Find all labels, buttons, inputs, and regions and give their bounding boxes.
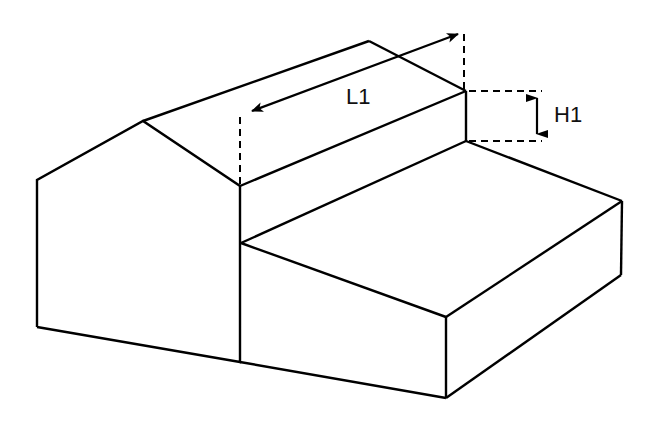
main-side-wall	[241, 91, 466, 243]
annex	[240, 141, 622, 398]
label-h1: H1	[554, 104, 582, 126]
label-l1: L1	[346, 86, 370, 108]
main-building-gable-wall	[37, 121, 240, 362]
building-diagram	[0, 0, 658, 422]
dimension-h1	[469, 91, 542, 141]
